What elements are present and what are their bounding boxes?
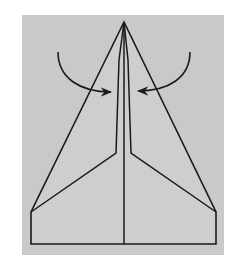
- paper-airplane-diagram: [0, 0, 241, 269]
